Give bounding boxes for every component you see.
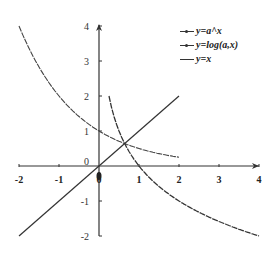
y-tick-label: -2 (81, 231, 89, 242)
legend-label: y=a^x (196, 24, 222, 38)
legend: y=a^x y=log(a,x) y=x (180, 24, 238, 66)
y-tick-label: 2 (84, 91, 89, 102)
y-tick-label: 1 (84, 126, 89, 137)
y-tick-label: -1 (81, 196, 89, 207)
origin-label: 0 (84, 156, 89, 167)
x-tick-label: 0 (97, 174, 102, 185)
x-tick-label: 2 (177, 174, 182, 185)
legend-item-logarithm: y=log(a,x) (180, 38, 238, 52)
x-tick-label: 4 (257, 174, 262, 185)
y-tick-label: 4 (84, 21, 89, 32)
line-marker-icon (180, 59, 194, 60)
legend-item-identity: y=x (180, 52, 238, 66)
x-tick-label: -2 (15, 174, 23, 185)
y-tick-label: 3 (84, 56, 89, 67)
legend-label: y=log(a,x) (196, 38, 238, 52)
legend-item-exponential: y=a^x (180, 24, 238, 38)
x-tick-label: 3 (217, 174, 222, 185)
x-tick-label: 1 (137, 174, 142, 185)
line-dot-marker-icon (180, 31, 194, 32)
legend-label: y=x (196, 52, 211, 66)
x-tick-label: -1 (55, 174, 63, 185)
line-dot-marker-icon (180, 45, 194, 46)
